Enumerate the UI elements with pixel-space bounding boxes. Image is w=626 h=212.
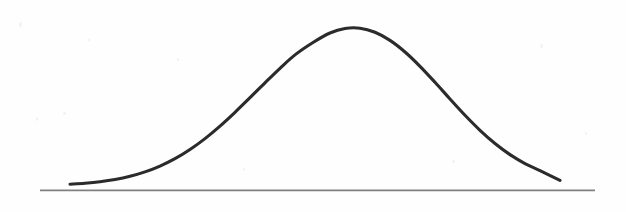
bell-curve-figure: Bell Curve (Normal Distribution) — [0, 0, 626, 212]
bell-curve-canvas: Bell Curve (Normal Distribution) — [0, 0, 626, 212]
bell-curve-line — [70, 28, 560, 184]
